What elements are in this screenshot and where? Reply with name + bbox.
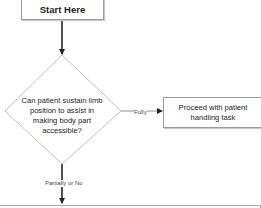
edge-label-partially-or-no: Partially or No (44, 180, 84, 187)
next-node-partial (0, 205, 261, 208)
start-node: Start Here (21, 0, 104, 20)
decision-question: Can patient sustain limb position to ass… (18, 96, 106, 136)
proceed-node: Proceed with patient handling task (163, 97, 261, 128)
edge-label-fully: Fully (134, 109, 147, 116)
